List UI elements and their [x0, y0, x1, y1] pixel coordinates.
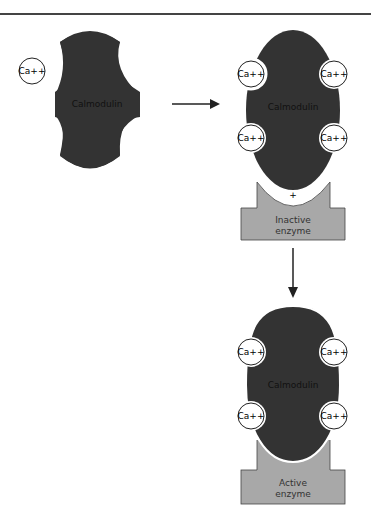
- svg-text:Inactive: Inactive: [275, 215, 311, 225]
- stage3-protein-label: Calmodulin: [268, 380, 319, 390]
- svg-text:Ca++: Ca++: [238, 411, 265, 421]
- svg-text:Ca++: Ca++: [238, 347, 265, 357]
- svg-text:Ca++: Ca++: [238, 133, 265, 143]
- free-calcium-ion: Ca++: [19, 58, 46, 84]
- calmodulin-unbound: Calmodulin: [55, 31, 140, 169]
- svg-text:enzyme: enzyme: [275, 226, 311, 236]
- arrow-down-icon: [288, 248, 298, 298]
- svg-text:+: +: [289, 190, 297, 200]
- active-enzyme-line2: enzyme: [275, 489, 311, 499]
- svg-text:Ca++: Ca++: [321, 411, 348, 421]
- svg-text:Ca++: Ca++: [321, 347, 348, 357]
- calmodulin-diagram: Ca++ Calmodulin Ca++ Ca++ Ca++ Ca++ Calm…: [0, 0, 371, 529]
- svg-text:Ca++: Ca++: [19, 66, 46, 76]
- inactive-enzyme: + Inactive enzyme: [241, 182, 345, 240]
- svg-text:Ca++: Ca++: [238, 69, 265, 79]
- stage2-protein-label: Calmodulin: [268, 102, 319, 112]
- svg-text:Ca++: Ca++: [321, 69, 348, 79]
- svg-text:Ca++: Ca++: [321, 133, 348, 143]
- svg-text:Calmodulin: Calmodulin: [72, 99, 123, 109]
- calmodulin-bound-inactive: [246, 30, 340, 210]
- active-enzyme-line1: Active: [279, 478, 307, 488]
- arrow-right-icon: [172, 99, 220, 109]
